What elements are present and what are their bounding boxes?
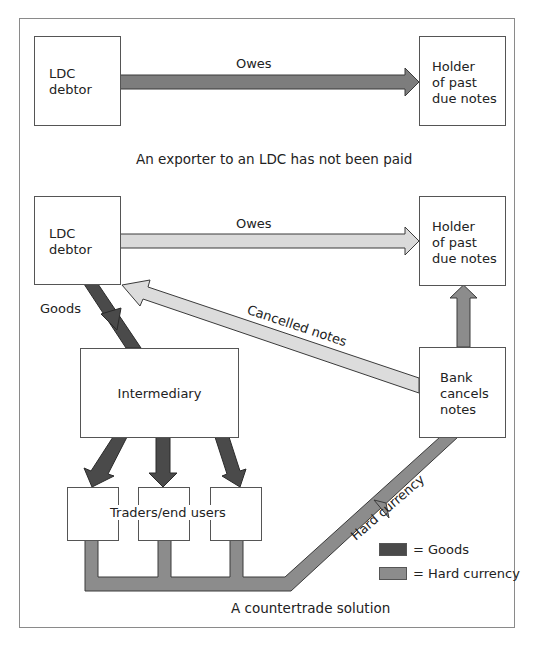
owes-label-2: Owes [236, 216, 272, 231]
legend-goods-label: = Goods [413, 542, 469, 557]
goods-arrow-to-trader-3 [215, 437, 246, 487]
holder-line3: due notes [432, 251, 497, 267]
caption-panel2: A countertrade solution [231, 600, 390, 616]
intermediary-label: Intermediary [81, 386, 238, 402]
ldc-debtor-line2: debtor [49, 82, 92, 98]
intermediary-box: Intermediary [80, 348, 239, 438]
goods-arrow-to-trader-1 [84, 437, 127, 487]
owes-arrow-dark [120, 68, 419, 96]
bank-box: Bank cancels notes [419, 347, 506, 438]
holder-line3: due notes [432, 91, 497, 107]
legend-goods: = Goods [379, 542, 469, 557]
legend-hard-currency: = Hard currency [379, 566, 520, 581]
goods-arrow-to-trader-2 [149, 437, 177, 487]
legend-hard-currency-label: = Hard currency [413, 566, 520, 581]
legend-hard-currency-swatch [379, 567, 407, 580]
holder-line1: Holder [432, 59, 497, 75]
traders-label: Traders/end users [109, 505, 227, 520]
bank-line1: Bank [440, 370, 489, 386]
owes-arrow-light [120, 227, 419, 255]
holder-box-2: Holder of past due notes [419, 196, 506, 286]
ldc-debtor-line2: debtor [49, 242, 92, 258]
owes-label-1: Owes [236, 56, 272, 71]
holder-line2: of past [432, 235, 497, 251]
ldc-debtor-box-1: LDC debtor [34, 36, 121, 126]
holder-line1: Holder [432, 219, 497, 235]
ldc-debtor-box-2: LDC debtor [34, 196, 121, 285]
caption-panel1: An exporter to an LDC has not been paid [136, 151, 412, 167]
legend-goods-swatch [379, 543, 407, 556]
ldc-debtor-line1: LDC [49, 66, 92, 82]
bank-line3: notes [440, 402, 489, 418]
bank-to-holder-arrow [450, 285, 477, 347]
ldc-debtor-line1: LDC [49, 226, 92, 242]
holder-box-1: Holder of past due notes [419, 36, 506, 126]
holder-line2: of past [432, 75, 497, 91]
bank-line2: cancels [440, 386, 489, 402]
goods-label: Goods [40, 301, 81, 316]
